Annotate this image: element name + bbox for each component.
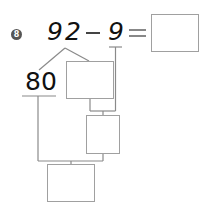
final-box[interactable] bbox=[47, 164, 95, 202]
minus-sign bbox=[86, 32, 100, 34]
minuend: 92 bbox=[47, 19, 83, 44]
split-line-right bbox=[65, 48, 89, 61]
problem-number-badge: 8 bbox=[11, 29, 22, 40]
ones-split-box[interactable] bbox=[66, 61, 114, 99]
tens-value: 80 bbox=[25, 69, 57, 94]
equals-sign-top bbox=[129, 29, 146, 31]
step-box[interactable] bbox=[86, 115, 120, 154]
answer-box[interactable] bbox=[151, 14, 199, 52]
equals-sign-bottom bbox=[129, 35, 146, 37]
subtrahend: 9 bbox=[108, 19, 124, 44]
